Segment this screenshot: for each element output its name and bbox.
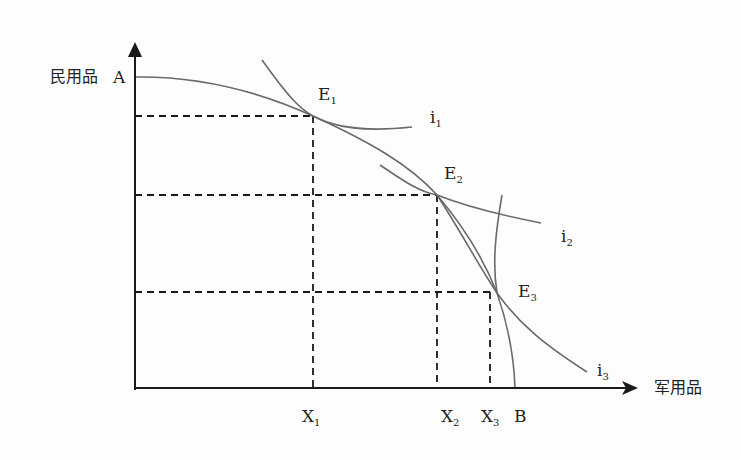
- tick-x2-label: X2: [441, 408, 459, 428]
- curve-i3-label: i3: [597, 362, 609, 382]
- production-possibility-frontier: [135, 77, 515, 388]
- diagram-canvas: 民用品 A 军用品 E1 E2 E3 i1 i2 i3 X1 X2 X3 B: [0, 0, 741, 461]
- indifference-curve-i1: [262, 60, 412, 129]
- point-e1-label: E1: [318, 86, 337, 106]
- curve-i1-label: i1: [430, 109, 442, 129]
- point-a-label: A: [113, 69, 125, 86]
- curve-i2-label: i2: [561, 228, 573, 248]
- indifference-curve-i3: [437, 195, 587, 372]
- x-axis-label: 军用品: [654, 380, 702, 396]
- ppf-lower-segment: [495, 195, 502, 293]
- y-axis-arrow-icon: [128, 42, 142, 57]
- point-b-label: B: [514, 408, 527, 425]
- curves: [135, 60, 587, 388]
- tick-x1-label: X1: [302, 408, 320, 428]
- y-axis-label: 民用品: [50, 69, 98, 85]
- tick-x3-label: X3: [481, 408, 499, 428]
- axes: [134, 52, 626, 390]
- dashed-guides: [135, 116, 490, 388]
- diagram-svg: [0, 0, 741, 461]
- point-e2-label: E2: [444, 165, 463, 185]
- point-e3-label: E3: [518, 283, 537, 303]
